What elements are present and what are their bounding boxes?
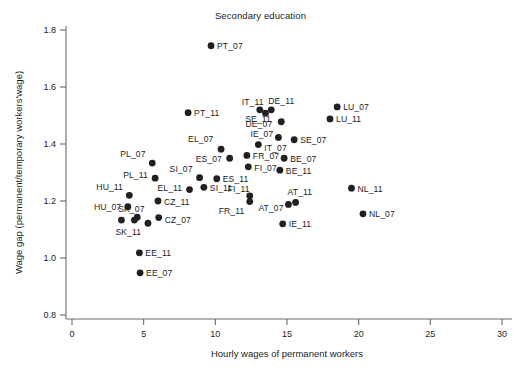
data-point-label: BE_07 bbox=[290, 154, 316, 164]
data-point-label: SI_07 bbox=[170, 164, 193, 174]
data-point-label: PT_07 bbox=[217, 41, 243, 51]
data-point bbox=[186, 186, 193, 193]
data-point bbox=[213, 175, 220, 182]
data-point bbox=[281, 155, 288, 162]
data-point-label: EL_07 bbox=[188, 134, 213, 144]
y-tick-label: 1.4 bbox=[43, 139, 56, 149]
data-points-group bbox=[118, 42, 366, 276]
data-point bbox=[256, 106, 263, 113]
data-point bbox=[137, 269, 144, 276]
data-point-label: SE_07 bbox=[300, 135, 326, 145]
y-tick-label: 0.8 bbox=[43, 310, 56, 320]
data-point bbox=[246, 198, 253, 205]
y-tick-label: 1.8 bbox=[43, 25, 56, 35]
data-point bbox=[152, 175, 159, 182]
data-point bbox=[155, 198, 162, 205]
data-point-label: AT_07 bbox=[258, 203, 283, 213]
data-point bbox=[226, 155, 233, 162]
data-point-label: SK_11 bbox=[115, 227, 141, 237]
y-axis-title: Wage gap (permanent/temporary workers'wa… bbox=[13, 71, 24, 274]
data-point-label: FI_07 bbox=[254, 163, 277, 173]
x-tick-label: 30 bbox=[497, 329, 507, 339]
data-point bbox=[348, 185, 355, 192]
data-point-label: EE_07 bbox=[146, 268, 172, 278]
point-labels-group: PT_07PT_11IT_11DE_11SE_11DE_07IE_07SE_07… bbox=[94, 41, 395, 278]
x-tick-label: 25 bbox=[425, 329, 435, 339]
data-point bbox=[200, 184, 207, 191]
x-tick-label: 15 bbox=[282, 329, 292, 339]
data-point-label: LU_11 bbox=[336, 114, 361, 124]
data-point bbox=[155, 214, 162, 221]
data-point-label: DE_07 bbox=[246, 119, 273, 129]
data-point-label: EL_11 bbox=[158, 183, 183, 193]
data-point bbox=[291, 136, 298, 143]
data-point-label: IT_11 bbox=[242, 97, 264, 107]
data-point-label: CZ_07 bbox=[165, 215, 191, 225]
x-tick-label: 10 bbox=[210, 329, 220, 339]
data-point bbox=[276, 167, 283, 174]
data-point-label: DE_11 bbox=[268, 96, 294, 106]
data-point bbox=[279, 220, 286, 227]
data-point bbox=[136, 249, 143, 256]
x-axis-title: Hourly wages of permanent workers bbox=[211, 348, 363, 359]
data-point-label: IE_07 bbox=[250, 129, 273, 139]
data-point bbox=[145, 220, 152, 227]
data-point bbox=[118, 217, 125, 224]
x-tick-label: 5 bbox=[141, 329, 146, 339]
y-tick-label: 1.6 bbox=[43, 82, 56, 92]
data-point bbox=[131, 217, 138, 224]
data-point-label: CZ_11 bbox=[164, 197, 190, 207]
data-point-label: EE_11 bbox=[145, 248, 171, 258]
data-point-label: LU_07 bbox=[343, 102, 369, 112]
data-point bbox=[292, 199, 299, 206]
y-tick-label: 1.0 bbox=[43, 253, 56, 263]
data-point bbox=[126, 192, 133, 199]
data-point bbox=[255, 141, 262, 148]
data-point-label: HU_11 bbox=[96, 182, 123, 192]
y-tick-label: 1.2 bbox=[43, 196, 56, 206]
data-point bbox=[327, 116, 334, 123]
data-point-label: SK_07 bbox=[118, 204, 144, 214]
data-point-label: PL_11 bbox=[123, 170, 148, 180]
data-point-label: ES_07 bbox=[196, 154, 222, 164]
data-point bbox=[278, 118, 285, 125]
data-point-label: HU_07 bbox=[94, 202, 121, 212]
data-point bbox=[275, 134, 282, 141]
x-tick-label: 20 bbox=[354, 329, 364, 339]
chart-figure: Secondary education 0.81.01.21.41.61.805… bbox=[0, 0, 521, 379]
data-point bbox=[245, 163, 252, 170]
scatter-plot-canvas: 0.81.01.21.41.61.8051015202530 PT_07PT_1… bbox=[0, 0, 521, 379]
data-point-label: FR_11 bbox=[219, 206, 245, 216]
data-point bbox=[185, 109, 192, 116]
data-point-label: BE_11 bbox=[286, 166, 312, 176]
data-point-label: FI_11 bbox=[228, 184, 250, 194]
data-point bbox=[285, 201, 292, 208]
data-point bbox=[218, 146, 225, 153]
data-point bbox=[196, 174, 203, 181]
data-point-label: NL_07 bbox=[369, 209, 395, 219]
data-point bbox=[243, 152, 250, 159]
x-tick-label: 0 bbox=[69, 329, 74, 339]
data-point-label: NL_11 bbox=[358, 184, 383, 194]
data-point bbox=[149, 160, 156, 167]
data-point bbox=[208, 42, 215, 49]
data-point-label: PL_07 bbox=[120, 149, 145, 159]
data-point bbox=[360, 210, 367, 217]
data-point bbox=[268, 106, 275, 113]
data-point-label: PT_11 bbox=[194, 108, 219, 118]
data-point-label: AT_11 bbox=[288, 187, 313, 197]
data-point bbox=[334, 104, 341, 111]
data-point-label: IE_11 bbox=[289, 219, 311, 229]
data-point-label: FR_07 bbox=[253, 151, 279, 161]
